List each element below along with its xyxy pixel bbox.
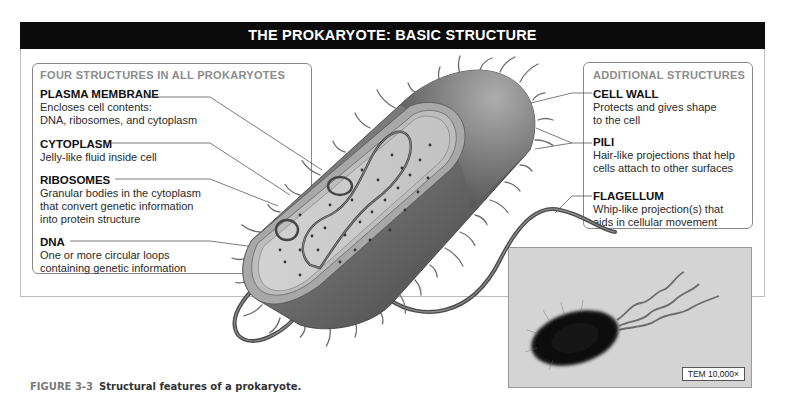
ribosomes-title: RIBOSOMES (40, 173, 201, 187)
label-flagellum: FLAGELLUM Whip-like projection(s) that a… (593, 189, 723, 229)
label-cell-wall: CELL WALL Protects and gives shape to th… (593, 87, 717, 127)
ribosomes-desc-3: into protein structure (40, 213, 201, 226)
figure-caption-text: Structural features of a prokaryote. (99, 381, 301, 392)
pili-title: PILI (593, 135, 735, 149)
figure-number: FIGURE 3-3 (30, 381, 93, 392)
pili-desc-2: cells attach to other surfaces (593, 162, 735, 175)
pilus (380, 312, 383, 324)
magnification-label: TEM 10,000× (682, 367, 745, 381)
flagellum-title: FLAGELLUM (593, 189, 723, 203)
cytoplasm-title: CYTOPLASM (40, 137, 157, 151)
pilus (244, 305, 262, 316)
plasma-membrane-desc-1: Encloses cell contents: (40, 101, 197, 114)
pilus (355, 322, 357, 337)
cytoplasm-desc-1: Jelly-like fluid inside cell (40, 151, 157, 164)
plasma-membrane-title: PLASMA MEMBRANE (40, 87, 197, 101)
flagellum-desc-2: aids in cellular movement (593, 216, 723, 229)
label-ribosomes: RIBOSOMES Granular bodies in the cytopla… (40, 173, 201, 226)
dna-desc-2: containing genetic information (40, 262, 186, 275)
figure-caption: FIGURE 3-3Structural features of a proka… (30, 381, 301, 392)
pilus (300, 325, 305, 337)
pilus (326, 328, 330, 346)
plasma-membrane-desc-2: DNA, ribosomes, and cytoplasm (40, 114, 197, 127)
dna-title: DNA (40, 235, 186, 249)
diagram-title: THE PROKARYOTE: BASIC STRUCTURE (20, 22, 765, 49)
ribosomes-desc-2: that convert genetic information (40, 200, 201, 213)
flagellum-desc-1: Whip-like projection(s) that (593, 203, 723, 216)
tem-micrograph: TEM 10,000× (508, 247, 752, 388)
cell-wall-desc-2: to the cell (593, 114, 717, 127)
cell-wall-desc-1: Protects and gives shape (593, 101, 717, 114)
ribosomes-desc-1: Granular bodies in the cytoplasm (40, 187, 201, 200)
label-pili: PILI Hair-like projections that help cel… (593, 135, 735, 175)
core-structures-heading: FOUR STRUCTURES IN ALL PROKARYOTES (40, 69, 285, 81)
label-plasma-membrane: PLASMA MEMBRANE Encloses cell contents: … (40, 87, 197, 127)
pili-desc-1: Hair-like projections that help (593, 149, 735, 162)
additional-structures-heading: ADDITIONAL STRUCTURES (593, 69, 745, 81)
pilus (400, 295, 405, 313)
label-cytoplasm: CYTOPLASM Jelly-like fluid inside cell (40, 137, 157, 164)
label-dna: DNA One or more circular loops containin… (40, 235, 186, 275)
cell-wall-title: CELL WALL (593, 87, 717, 101)
dna-desc-1: One or more circular loops (40, 249, 186, 262)
pilus (270, 318, 281, 333)
